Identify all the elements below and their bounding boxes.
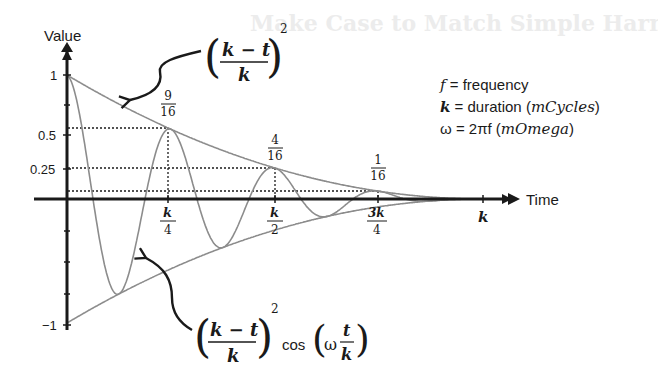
x-axis-label: Time [526,191,559,208]
svg-text:4: 4 [373,223,381,237]
x-tick-3k-over-4: 3k 4 [367,206,387,237]
svg-text:): ) [256,311,273,362]
svg-text:cos: cos [282,336,305,353]
svg-text:): ) [266,31,283,82]
svg-text:k: k [270,205,279,220]
svg-text:ω: ω [324,335,337,354]
legend-item-frequency: f = frequency [440,74,600,96]
svg-text:16: 16 [267,149,282,163]
svg-text:2: 2 [280,22,288,36]
svg-text:k − t: k − t [222,39,271,60]
svg-text:k: k [341,345,352,364]
svg-text:(: ( [194,311,211,362]
svg-text:t: t [343,321,351,340]
svg-text:k: k [238,64,250,85]
envelope-formula: ( k − t k ) 2 [204,22,288,85]
peak-label-1-16: 1 16 [370,153,386,183]
y-tick-neg1: −1 [42,318,57,333]
peak-label-9-16: 9 16 [160,89,176,119]
svg-text:k: k [163,205,172,220]
y-tick-0.25: 0.25 [30,162,55,177]
svg-text:k: k [227,345,239,366]
svg-text:): ) [355,317,370,361]
svg-text:2: 2 [271,223,279,237]
svg-text:4: 4 [271,133,279,147]
svg-text:16: 16 [160,105,175,119]
svg-text:3k: 3k [368,206,385,220]
svg-text:16: 16 [370,169,385,183]
svg-text:2: 2 [271,302,279,316]
y-tick-0.5: 0.5 [38,128,56,143]
svg-text:1: 1 [374,153,382,167]
dotted-guides [68,128,378,199]
x-tick-k-over-4: k 4 [160,205,176,237]
y-tick-1: 1 [50,68,57,83]
damped-oscillation-diagram: Value Time 1 0.5 0.25 −1 k 4 k 2 3k 4 k … [0,0,658,380]
y-axis-label: Value [44,27,81,44]
legend-item-duration: k = duration (mCycles) [440,96,600,118]
svg-text:4: 4 [164,223,172,237]
svg-text:9: 9 [164,89,172,103]
legend: f = frequency k = duration (mCycles) ω =… [440,74,600,140]
signal-formula: ( k − t k ) 2 cos ( ω t k ) [194,302,370,366]
svg-text:k − t: k − t [210,319,259,340]
legend-item-omega: ω = 2πf (mOmega) [440,118,600,140]
peak-label-4-16: 4 16 [267,133,283,163]
x-tick-k: k [478,208,488,226]
svg-text:(: ( [204,31,221,82]
